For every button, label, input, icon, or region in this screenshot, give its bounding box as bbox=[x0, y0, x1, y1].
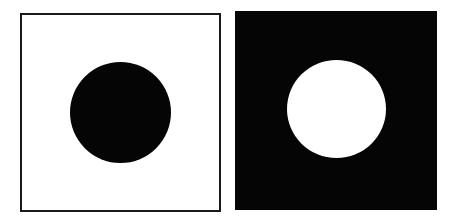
left-panel-white-square bbox=[20, 13, 221, 212]
right-panel-black-square bbox=[235, 11, 437, 210]
white-circle bbox=[287, 60, 386, 158]
black-circle bbox=[70, 62, 171, 163]
